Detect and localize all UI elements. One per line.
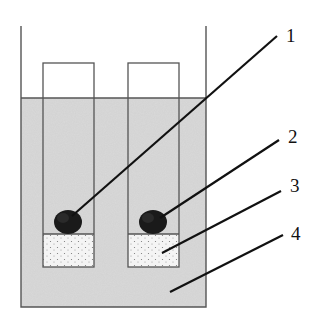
label-3: 3 xyxy=(290,175,300,196)
sample-blob-right xyxy=(139,210,167,234)
apparatus-diagram: 1 2 3 4 xyxy=(0,0,317,326)
label-2: 2 xyxy=(288,126,298,147)
label-4: 4 xyxy=(291,223,301,244)
label-1: 1 xyxy=(286,25,296,46)
liquid xyxy=(21,98,206,307)
sample-blob-left xyxy=(54,210,82,234)
